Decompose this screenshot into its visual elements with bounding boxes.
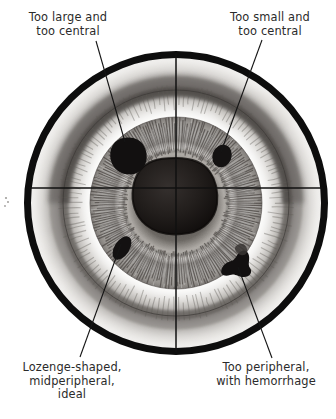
label-lozenge-midperipheral-ideal: Lozenge-shaped, midperipheral, ideal (2, 361, 142, 402)
pupil (133, 158, 218, 234)
lesion-too-large (110, 138, 147, 175)
eye-quadrant-diagram (0, 0, 336, 419)
label-too-peripheral-hemorrhage: Too peripheral, with hemorrhage (196, 361, 336, 388)
label-too-large-too-central: Too large and too central (4, 11, 132, 38)
label-too-small-too-central: Too small and too central (206, 11, 334, 38)
